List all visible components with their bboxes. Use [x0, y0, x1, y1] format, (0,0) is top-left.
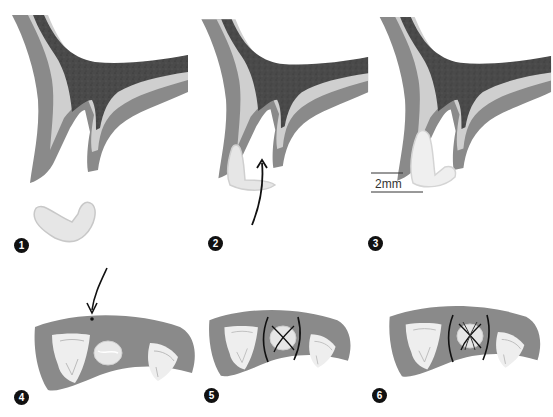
step-badge-3: 3 — [368, 236, 383, 251]
cross-section-diagram — [0, 0, 190, 190]
step-badge-6: 6 — [372, 388, 387, 403]
graft-occlusal — [88, 337, 128, 377]
step-6-panel: 6 — [360, 260, 553, 417]
step-3-panel: 2mm 3 — [360, 0, 553, 260]
v-graft — [30, 200, 100, 245]
double-cross-suture-icon — [445, 310, 495, 370]
step-5-panel: 5 — [190, 260, 370, 417]
step-4-panel: 4 — [0, 260, 190, 417]
step-1-panel: 1 — [0, 0, 190, 260]
step-2-panel: 2 — [190, 0, 370, 260]
incision-arrow-icon — [82, 265, 122, 325]
step-badge-5: 5 — [204, 388, 219, 403]
step-badge-1: 1 — [14, 238, 29, 253]
rotation-arrow-icon — [242, 155, 282, 235]
step-badge-4: 4 — [14, 390, 29, 405]
step-badge-2: 2 — [208, 236, 223, 251]
scale-label: 2mm — [375, 177, 402, 191]
cross-suture-icon — [258, 312, 308, 372]
